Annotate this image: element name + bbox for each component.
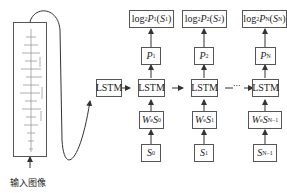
prob-box-2: P2 [194, 47, 214, 65]
lstm-caption-diagram: 输入图像 LSTM ··· log2P1(S1) P1 LSTM WeS0 S0… [0, 0, 287, 193]
embed-box-2: WeS1 [192, 111, 217, 129]
lstm-box-2: LSTM [191, 79, 218, 97]
output-box-n: log2PN(SN) [242, 10, 287, 28]
prob-box-1: P1 [141, 47, 161, 65]
word-box-1: S0 [141, 144, 161, 162]
embed-box-n: WeSN−1 [248, 111, 282, 129]
word-box-n: SN−1 [253, 144, 277, 162]
embed-box-1: WeS0 [139, 111, 164, 129]
input-label: 输入图像 [10, 176, 46, 189]
word-box-2: S1 [194, 144, 214, 162]
ellipsis: ··· [233, 82, 241, 91]
prob-box-n: PN [255, 47, 276, 65]
lstm-box-1: LSTM [138, 79, 165, 97]
output-box-1: log2P1(S1) [129, 10, 174, 28]
input-image [13, 22, 47, 157]
tree-graphic [16, 27, 46, 154]
lstm-box-n: LSTM [252, 79, 279, 97]
initial-lstm-box: LSTM [96, 79, 122, 97]
initial-lstm-label: LSTM [96, 83, 123, 93]
output-box-2: log2P2(S2) [182, 10, 227, 28]
